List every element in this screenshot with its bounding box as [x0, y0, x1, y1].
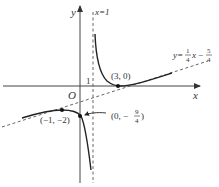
- svg-text:y=: y=: [172, 50, 183, 60]
- x-axis-label: x: [192, 89, 198, 101]
- svg-text:9: 9: [135, 108, 139, 116]
- function-graph: y x O 1 x=1 y= 1 4 x − 5 4 (3, 0) (−1, −…: [0, 0, 219, 187]
- oblique-asymptote: [2, 61, 208, 127]
- svg-text:−: −: [198, 50, 203, 60]
- oblique-asymptote-label: y= 1 4 x − 5 4: [172, 47, 212, 64]
- svg-text:x: x: [191, 50, 196, 60]
- point-neg1-neg2: [60, 108, 64, 112]
- point-label-3-0: (3, 0): [111, 71, 131, 81]
- pointer-arrow: [85, 113, 106, 115]
- y-axis-label: y: [70, 6, 76, 18]
- svg-text:4: 4: [186, 56, 190, 64]
- point-0-neg9-4: [78, 114, 82, 118]
- point-label-neg1-neg2: (−1, −2): [40, 115, 70, 125]
- curve-right-branch: [95, 34, 172, 86]
- svg-text:4: 4: [207, 56, 211, 64]
- origin-label: O: [68, 89, 76, 101]
- vertical-asymptote-label: x=1: [94, 7, 110, 17]
- svg-text:): ): [141, 111, 144, 121]
- svg-text:4: 4: [135, 117, 139, 125]
- point-3-0: [116, 84, 120, 88]
- point-label-0-neg9-4: (0, − 9 4 ): [111, 108, 144, 125]
- svg-text:5: 5: [207, 47, 211, 55]
- svg-text:1: 1: [186, 47, 190, 55]
- svg-text:(0, −: (0, −: [111, 111, 128, 121]
- tick-label-one: 1: [86, 76, 91, 86]
